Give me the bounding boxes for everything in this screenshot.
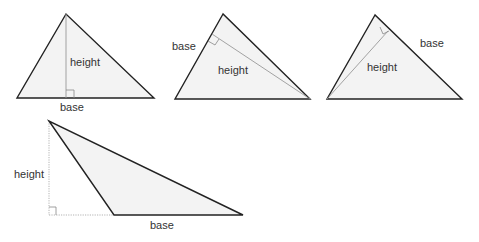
triangle-2-height-label: height <box>218 64 248 76</box>
triangle-2: base height <box>172 14 310 99</box>
triangle-3-shape <box>327 15 462 99</box>
triangle-1-base-label: base <box>60 101 84 113</box>
triangle-4-shape <box>49 121 243 215</box>
triangle-1: height base <box>17 14 154 113</box>
triangle-3-height-label: height <box>367 61 397 73</box>
triangle-4-right-angle-marker <box>49 207 56 215</box>
triangle-2-shape <box>175 14 310 99</box>
triangle-4: height base <box>14 121 243 231</box>
triangle-1-height-label: height <box>70 56 100 68</box>
triangle-4-base-label: base <box>150 219 174 231</box>
triangle-2-base-label: base <box>172 40 196 52</box>
triangle-3: base height <box>327 15 462 99</box>
triangle-4-height-label: height <box>14 168 44 180</box>
triangle-base-height-diagram: height base base height base height heig… <box>0 0 479 242</box>
triangle-3-base-label: base <box>420 37 444 49</box>
